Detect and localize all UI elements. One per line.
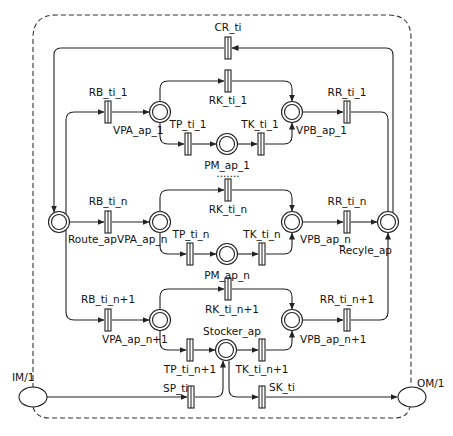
transition-rb-ti-n[interactable] xyxy=(105,211,111,233)
transition-rk-ti-1[interactable] xyxy=(225,70,231,92)
place-route-ap[interactable] xyxy=(49,212,70,233)
label-recyle-ap: Recyle_ap xyxy=(339,244,392,257)
label-rb-ti-1: RB_ti_1 xyxy=(89,86,128,99)
transition-sk-ti[interactable] xyxy=(259,386,265,408)
label-tk-ti-1: TK_ti_1 xyxy=(240,118,279,131)
label-rr-ti-n: RR_ti_n xyxy=(328,195,367,208)
label-stocker-ap: Stocker_ap xyxy=(203,325,261,338)
place-vpa-ap-1[interactable] xyxy=(150,102,171,123)
transition-tk-ti-n[interactable] xyxy=(259,243,265,265)
system-boundary-bottom xyxy=(33,407,410,418)
label-vpb-ap-n1: VPB_ap_n+1 xyxy=(300,333,366,346)
transition-rr-ti-n1[interactable] xyxy=(344,309,350,331)
transition-rr-ti-1[interactable] xyxy=(344,101,350,123)
transition-rb-ti-1[interactable] xyxy=(105,101,111,123)
port-im[interactable] xyxy=(19,387,47,407)
label-sp-ti: SP_ti xyxy=(163,382,188,395)
place-vpa-ap-n1[interactable] xyxy=(150,310,171,331)
label-vpa-ap-n: VPA_ap_n xyxy=(117,233,167,246)
label-rk-ti-n: RK_ti_n xyxy=(209,203,247,216)
label-vpa-ap-1: VPA_ap_1 xyxy=(113,124,163,137)
transition-tp-ti-n1[interactable] xyxy=(187,339,193,361)
transition-tk-ti-1[interactable] xyxy=(258,133,264,155)
petri-net-diagram: CR_ti RB_ti_1 RK_ti_1 TP_ti_1 TK_ti_1 RR… xyxy=(0,0,453,436)
place-vpb-ap-n[interactable] xyxy=(282,212,303,233)
label-tp-ti-n: TP_ti_n xyxy=(172,228,210,241)
label-cr-ti: CR_ti xyxy=(215,21,242,34)
transition-rk-ti-n[interactable] xyxy=(225,179,231,201)
transition-rr-ti-n[interactable] xyxy=(344,211,350,233)
label-tp-ti-1: TP_ti_1 xyxy=(169,118,207,131)
label-tk-ti-n: TK_ti_n xyxy=(242,228,281,241)
transition-cr-ti[interactable] xyxy=(225,37,231,59)
label-rb-ti-n: RB_ti_n xyxy=(89,195,128,208)
transition-tp-ti-n[interactable] xyxy=(187,243,193,265)
label-rk-ti-1: RK_ti_1 xyxy=(209,94,247,107)
label-tp-ti-n1: TP_ti_n+1 xyxy=(163,363,216,376)
transition-rk-ti-n1[interactable] xyxy=(225,278,231,300)
transition-tp-ti-1[interactable] xyxy=(185,133,191,155)
label-om: OM/1 xyxy=(417,377,445,389)
port-om[interactable] xyxy=(398,387,426,407)
place-vpb-ap-1[interactable] xyxy=(282,102,303,123)
place-vpa-ap-n[interactable] xyxy=(150,212,171,233)
place-recyle-ap[interactable] xyxy=(378,212,399,233)
label-vpb-ap-1: VPB_ap_1 xyxy=(296,124,347,137)
label-rb-ti-n1: RB_ti_n+1 xyxy=(81,293,135,306)
place-pm-ap-1[interactable] xyxy=(217,134,238,155)
label-sk-ti: SK_ti xyxy=(269,381,295,394)
label-rr-ti-1: RR_ti_1 xyxy=(328,86,367,99)
place-vpb-ap-n1[interactable] xyxy=(282,310,303,331)
label-im: IM/1 xyxy=(12,371,34,383)
label-vpa-ap-n1: VPA_ap_n+1 xyxy=(102,333,168,346)
place-pm-ap-n[interactable] xyxy=(217,244,238,265)
transition-tk-ti-n1[interactable] xyxy=(259,339,265,361)
place-stocker-ap[interactable] xyxy=(216,340,237,361)
transition-rb-ti-n1[interactable] xyxy=(105,309,111,331)
ellipsis-dots: ....... xyxy=(216,167,239,179)
label-rk-ti-n1: RK_ti_n+1 xyxy=(205,303,259,316)
label-pm-ap-n: PM_ap_n xyxy=(204,269,250,282)
label-rr-ti-n1: RR_ti_n+1 xyxy=(320,293,374,306)
label-tk-ti-n1: TK_ti_n+1 xyxy=(235,363,289,376)
label-route-ap: Route_ap xyxy=(68,233,117,246)
transition-sp-ti[interactable] xyxy=(188,386,194,408)
